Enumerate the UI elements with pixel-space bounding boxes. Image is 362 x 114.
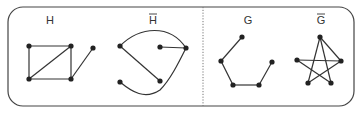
graph-label: H xyxy=(149,14,157,26)
graph-vertex xyxy=(338,58,343,63)
graph-g: G xyxy=(218,14,274,88)
graph-edge xyxy=(120,46,160,81)
graph-edge xyxy=(297,60,341,61)
graph-vertex xyxy=(26,43,31,48)
graphs-group: HHGG xyxy=(26,14,343,95)
graph-label: G xyxy=(244,14,253,26)
graph-vertex xyxy=(269,59,274,64)
graph-vertex xyxy=(294,57,299,62)
graph-edge xyxy=(120,31,186,49)
graph-vertex xyxy=(90,45,95,50)
graph-vertex xyxy=(157,44,162,49)
graph-label: H xyxy=(46,14,54,26)
graph-vertex xyxy=(117,79,122,84)
graph-vertex xyxy=(256,82,261,87)
graph-edge xyxy=(160,47,186,48)
graph-edge xyxy=(71,48,93,79)
graph-vertex xyxy=(218,58,223,63)
graph-h: H xyxy=(26,14,95,82)
rounded-frame xyxy=(8,7,354,106)
graph-vertex xyxy=(68,43,73,48)
graph-edge xyxy=(259,62,272,85)
graph-vertex xyxy=(68,76,73,81)
graph-vertex xyxy=(305,80,310,85)
graph-vertex xyxy=(317,34,322,39)
graph-vertex xyxy=(328,80,333,85)
graph-h-complement: H xyxy=(117,14,188,95)
graph-edge xyxy=(221,37,242,61)
graph-vertex xyxy=(157,78,162,83)
graph-vertex xyxy=(26,76,31,81)
graph-edge xyxy=(221,61,233,85)
graph-label: G xyxy=(317,14,326,26)
graph-vertex xyxy=(230,82,235,87)
graph-g-complement: G xyxy=(294,14,343,86)
graph-edge xyxy=(29,46,71,79)
graph-complement-diagram: HHGG xyxy=(0,0,362,114)
graph-vertex xyxy=(183,45,188,50)
graph-vertex xyxy=(117,43,122,48)
graph-vertex xyxy=(239,34,244,39)
